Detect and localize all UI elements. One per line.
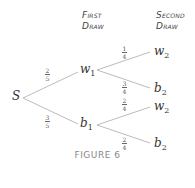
header-line: Draw [82,21,104,32]
node-w1: w1 [80,62,95,78]
node-start: S [12,89,20,103]
prob-w1-w2: 14 [122,45,127,60]
header-line: Draw [156,21,185,32]
second-draw-header: Second Draw [156,10,185,32]
node-w2-lower: w2 [154,99,169,115]
prob-w1-b2: 34 [122,80,127,95]
header-line: First [82,10,104,21]
node-w2-upper: w2 [154,44,169,60]
figure-caption: FIGURE 6 [0,150,195,160]
prob-b1-b2: 24 [122,136,127,151]
node-b1: b1 [80,116,93,132]
prob-s-b1: 35 [45,114,50,129]
prob-b1-w2: 24 [122,97,127,112]
first-draw-header: First Draw [82,10,104,32]
prob-s-w1: 25 [45,67,50,82]
node-b2-upper: b2 [154,81,167,97]
header-line: Second [156,10,185,21]
